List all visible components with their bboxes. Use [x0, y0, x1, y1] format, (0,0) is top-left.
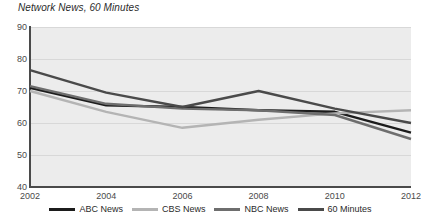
legend-item[interactable]: 60 Minutes	[298, 204, 372, 214]
legend-swatch	[49, 208, 75, 211]
legend-item[interactable]: NBC News	[214, 204, 288, 214]
y-axis-tick-label: 80	[3, 55, 27, 64]
line-chart: Network News, 60 Minutes 908070605040 20…	[0, 0, 421, 218]
x-axis-tick-label: 2006	[172, 191, 192, 201]
series-line	[30, 70, 411, 123]
legend-label: 60 Minutes	[328, 204, 372, 214]
chart-title: Network News, 60 Minutes	[18, 2, 139, 13]
y-axis-tick-label: 50	[3, 151, 27, 160]
legend-item[interactable]: CBS News	[132, 204, 206, 214]
x-axis-tick-label: 2002	[20, 191, 40, 201]
y-axis-ticks: 908070605040	[0, 0, 27, 218]
series-lines	[30, 27, 411, 187]
legend-label: NBC News	[244, 204, 288, 214]
y-axis-tick-label: 90	[3, 23, 27, 32]
legend-label: ABC News	[79, 204, 123, 214]
x-axis-tick-label: 2008	[249, 191, 269, 201]
legend-swatch	[132, 208, 158, 211]
legend-swatch	[214, 208, 240, 211]
legend-item[interactable]: ABC News	[49, 204, 123, 214]
y-axis-tick-label: 60	[3, 119, 27, 128]
y-axis-tick-label: 70	[3, 87, 27, 96]
x-axis-tick-label: 2010	[325, 191, 345, 201]
legend-label: CBS News	[162, 204, 206, 214]
chart-legend: ABC NewsCBS NewsNBC News60 Minutes	[0, 204, 421, 214]
x-axis-tick-label: 2012	[401, 191, 421, 201]
legend-swatch	[298, 208, 324, 211]
x-axis-tick-label: 2004	[96, 191, 116, 201]
